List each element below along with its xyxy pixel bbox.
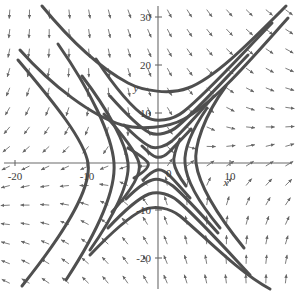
xtick-label--20: -20 (8, 170, 23, 182)
field-arrow (285, 126, 294, 127)
y-axis-label: y (133, 82, 139, 94)
ytick-label--10: -10 (136, 204, 151, 216)
xtick-label--10: -10 (80, 170, 95, 182)
field-arrow (68, 68, 69, 77)
field-arrow (9, 10, 10, 19)
phase-portrait-svg: -20 -10 0 10 30 20 10 -10 -20 y x (0, 0, 295, 293)
field-arrow (29, 29, 30, 38)
ytick-label--20: -20 (136, 252, 151, 264)
xtick-label-0: 0 (166, 167, 172, 179)
ytick-label-30: 30 (140, 11, 152, 23)
x-axis-label: x (223, 176, 229, 188)
field-arrow (49, 49, 50, 58)
ytick-label-20: 20 (140, 59, 152, 71)
ytick-label-10: 10 (140, 107, 152, 119)
phase-portrait-figure: -20 -10 0 10 30 20 10 -10 -20 y x (0, 0, 295, 293)
field-arrow (1, 205, 10, 206)
